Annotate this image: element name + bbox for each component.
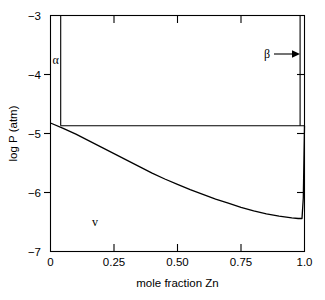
phase-diagram-figure: α β v −3 −4 −5 −6 −7 0 0.25 0.50 0.75 1.…	[0, 0, 325, 300]
x-tick-label-075: 0.75	[230, 256, 252, 268]
x-tick-label-025: 0.25	[103, 256, 125, 268]
y-tick-label-minus4: −4	[28, 69, 42, 81]
y-axis-title: log P (atm)	[7, 105, 19, 161]
alpha-region-label: α	[53, 53, 60, 67]
x-axis-ticks-top	[114, 16, 241, 24]
x-tick-label-050: 0.50	[166, 256, 188, 268]
beta-region-label: β	[264, 47, 270, 61]
y-tick-label-minus3: −3	[28, 10, 41, 22]
x-tick-label-0: 0	[47, 256, 53, 268]
x-axis-title: mole fraction Zn	[136, 277, 218, 289]
chart-canvas: α β v −3 −4 −5 −6 −7 0 0.25 0.50 0.75 1.…	[0, 0, 325, 300]
y-tick-label-minus6: −6	[28, 187, 41, 199]
vapour-pressure-curve	[51, 123, 305, 219]
vapor-region-label: v	[92, 215, 98, 229]
x-tick-label-10: 1.0	[297, 256, 313, 268]
y-tick-label-minus5: −5	[28, 128, 41, 140]
y-tick-label-minus7: −7	[28, 246, 41, 258]
x-axis-ticks-bottom	[114, 244, 241, 252]
beta-pointer-arrow	[274, 50, 300, 58]
y-axis-ticks-left	[44, 75, 51, 193]
